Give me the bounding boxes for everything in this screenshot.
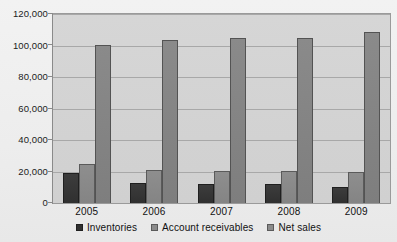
y-axis-tick-label: 80,000 (0, 71, 48, 82)
bar-group (53, 14, 120, 203)
y-axis-tick-label: 60,000 (0, 102, 48, 113)
x-axis-labels: 20052006200720082009 (53, 206, 390, 217)
gridline (53, 203, 390, 204)
x-axis-tick-label: 2008 (255, 206, 322, 217)
legend-item[interactable]: Account receivables (151, 222, 253, 233)
legend-swatch-icon (76, 224, 83, 231)
bar (198, 184, 214, 203)
y-axis-tick-mark (48, 108, 52, 109)
y-axis-tick-mark (48, 13, 52, 14)
legend-item[interactable]: Inventories (76, 222, 137, 233)
bar (332, 187, 348, 203)
bar-groups (53, 14, 390, 203)
bar-group (188, 14, 255, 203)
chart-legend: InventoriesAccount receivablesNet sales (0, 222, 397, 233)
bar (265, 184, 281, 203)
y-axis-tick-label: 20,000 (0, 165, 48, 176)
bar (162, 40, 178, 203)
bar (348, 172, 364, 204)
legend-label: Net sales (278, 222, 321, 233)
x-axis-tick-label: 2006 (120, 206, 187, 217)
x-axis-tick-label: 2005 (53, 206, 120, 217)
bar (281, 171, 297, 203)
legend-label: Inventories (87, 222, 137, 233)
bar-chart: 020,00040,00060,00080,000100,000120,000 … (0, 0, 397, 242)
y-axis-tick-mark (48, 139, 52, 140)
legend-label: Account receivables (162, 222, 253, 233)
y-axis-tick-label: 0 (0, 197, 48, 208)
bar (214, 171, 230, 203)
legend-swatch-icon (151, 224, 158, 231)
legend-item[interactable]: Net sales (267, 222, 321, 233)
y-axis-tick-label: 120,000 (0, 8, 48, 19)
bar (130, 183, 146, 203)
bar (146, 170, 162, 203)
bar (364, 32, 380, 203)
y-axis-tick-label: 100,000 (0, 39, 48, 50)
bar (95, 45, 111, 203)
legend-swatch-icon (267, 224, 274, 231)
y-axis-tick-mark (48, 44, 52, 45)
bar-group (255, 14, 322, 203)
y-axis-tick-mark (48, 202, 52, 203)
bar (63, 173, 79, 203)
bar (230, 38, 246, 203)
y-axis-tick-label: 40,000 (0, 134, 48, 145)
y-axis-tick-mark (48, 171, 52, 172)
bar (297, 38, 313, 203)
bar-group (120, 14, 187, 203)
x-axis-tick-label: 2007 (188, 206, 255, 217)
y-axis-tick-mark (48, 76, 52, 77)
x-axis-tick-label: 2009 (323, 206, 390, 217)
bar (79, 164, 95, 203)
bar-group (323, 14, 390, 203)
